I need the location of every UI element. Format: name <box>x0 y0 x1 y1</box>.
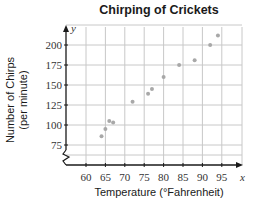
data-point <box>177 63 181 67</box>
data-point <box>111 121 115 125</box>
y-tick-label: 100 <box>46 119 63 131</box>
y-tick-label: 125 <box>46 99 63 111</box>
data-point <box>107 119 111 123</box>
data-point <box>162 75 166 79</box>
x-tick-label: 70 <box>119 171 131 183</box>
y-tick-label: 175 <box>46 59 63 71</box>
y-tick-label: 150 <box>46 79 63 91</box>
x-axis-symbol: x <box>239 171 245 183</box>
axis-break-icon <box>63 150 69 165</box>
x-tick-label: 75 <box>139 171 151 183</box>
y-tick-label: 75 <box>51 139 63 151</box>
y-tick-label: 200 <box>46 39 63 51</box>
x-tick-label: 90 <box>197 171 209 183</box>
data-point <box>216 33 220 37</box>
data-point <box>146 92 150 96</box>
y-axis-arrow-icon <box>63 25 69 32</box>
data-point <box>193 58 197 62</box>
data-point <box>103 127 107 131</box>
data-point <box>100 134 104 138</box>
scatter-plot: 606570758085909575100125150175200xy <box>0 0 258 214</box>
y-axis-symbol: y <box>70 22 76 34</box>
x-tick-label: 80 <box>158 171 170 183</box>
x-tick-label: 95 <box>216 171 228 183</box>
data-point <box>208 43 212 47</box>
data-point <box>131 100 135 104</box>
x-tick-label: 65 <box>100 171 112 183</box>
data-point <box>150 87 154 91</box>
x-tick-label: 60 <box>81 171 93 183</box>
x-tick-label: 85 <box>178 171 190 183</box>
